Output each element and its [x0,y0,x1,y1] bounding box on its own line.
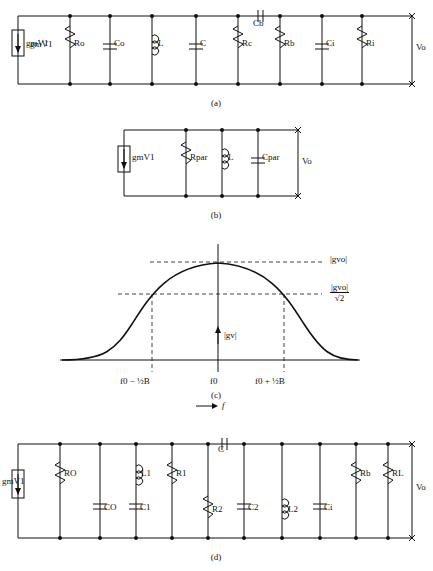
label-l-b: L [228,152,234,162]
label-ci-d: Ci [324,502,333,512]
panel-d-schematic [0,428,433,571]
label-vo-d: Vo [416,482,426,492]
label-ro-d: RO [64,468,77,478]
label-vo-b: Vo [302,156,312,166]
label-c-a: C [200,38,206,48]
tick-lower-cutoff-c: f0 − ½B [120,376,150,386]
label-l2-d: L2 [288,504,298,514]
panel-b: gmV1 Rpar L Cpar Vo (b) [0,118,433,228]
label-ro-a: Ro [74,38,85,48]
label-l-a: L [158,38,164,48]
tick-center-freq-c: f0 [210,376,218,386]
label-vo-a: Vo [416,42,426,52]
label-ci-a: Ci [326,38,335,48]
label-c1-d: C1 [140,502,151,512]
panel-a-schematic: gmV1 [0,0,433,112]
panel-d: gmV1 RO CO L1 C1 R1 R2 C C2 L2 Rb Ci RL … [0,428,433,571]
label-rl-d: RL [392,468,404,478]
label-half-power-gain-c: |gvo| √2 [330,282,349,303]
label-gain-axis-c: |gv| [224,330,237,340]
label-co-d: CO [104,502,117,512]
label-co-a: Co [114,38,125,48]
label-gmv1-d: gmV1 [2,476,25,486]
panel-c: |gvo| |gvo| √2 |gv| f0 − ½B f0 f0 + ½B f… [0,232,433,422]
label-rc-a: Rc [242,38,252,48]
label-l1-d: L1 [141,468,151,478]
label-ri-a: Ri [366,38,375,48]
label-gmv1-b: gmV1 [132,152,155,162]
label-rpar-b: Rpar [190,152,208,162]
label-rb-a: Rb [284,38,295,48]
caption-b: (b) [186,210,246,220]
label-peak-gain-c: |gvo| [330,254,347,264]
label-gmv1-a: gmV1 [26,38,49,48]
label-rb-d: Rb [360,468,371,478]
panel-a: gmV1 [0,0,433,112]
label-cb-a: Cb [253,18,264,28]
label-r1-d: R1 [176,468,187,478]
axis-label-frequency-c: f [222,400,225,410]
caption-d: (d) [186,552,246,562]
tick-upper-cutoff-c: f0 + ½B [255,376,285,386]
caption-a: (a) [186,98,246,108]
label-r2-d: R2 [212,504,223,514]
label-c-d: C [218,444,224,454]
label-cpar-b: Cpar [262,152,280,162]
caption-c: (c) [186,390,246,400]
label-c2-d: C2 [248,502,259,512]
current-source-b [118,146,130,172]
